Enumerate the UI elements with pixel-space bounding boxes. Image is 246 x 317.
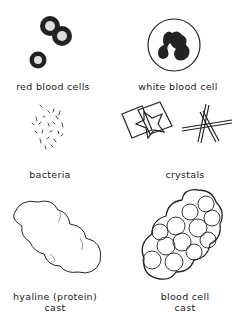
label-blood-cell-cast-line1: blood cell <box>140 291 230 302</box>
hyaline-cast-icon <box>10 196 105 286</box>
label-crystals: crystals <box>150 169 220 180</box>
label-bacteria: bacteria <box>10 169 90 180</box>
white-blood-cell-icon <box>146 17 202 73</box>
bacteria-icon <box>28 103 78 153</box>
label-hyaline-line2: cast <box>0 302 110 313</box>
red-blood-cells-icon <box>25 12 85 72</box>
label-blood-cell-cast-line2: cast <box>140 302 230 313</box>
label-white-blood-cell: white blood cell <box>128 81 228 92</box>
label-hyaline-line1: hyaline (protein) <box>0 291 110 302</box>
label-red-blood-cells: red blood cells <box>8 81 98 92</box>
blood-cell-cast-icon <box>136 188 228 288</box>
crystals-icon <box>120 102 235 164</box>
